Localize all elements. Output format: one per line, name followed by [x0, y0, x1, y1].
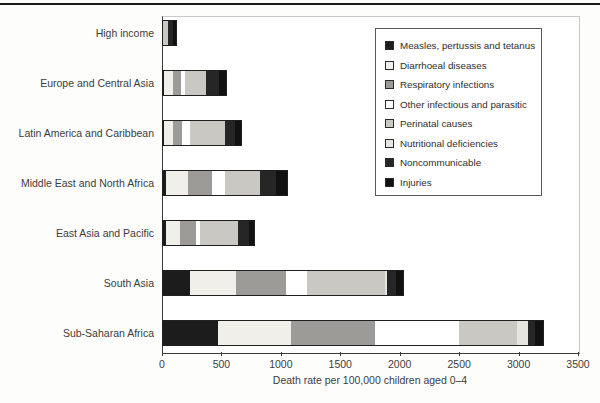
bar-row	[162, 320, 544, 346]
bar-segment	[185, 71, 206, 95]
bar-segment	[387, 271, 396, 295]
legend-swatch-icon	[385, 41, 394, 50]
bar-segment	[180, 221, 195, 245]
legend-item: Other infectious and parasitic	[385, 95, 541, 115]
bar-segment	[307, 271, 385, 295]
chart-area: High incomeEurope and Central AsiaLatin …	[0, 0, 600, 403]
bar-segment	[236, 271, 286, 295]
legend-swatch-icon	[385, 100, 394, 109]
bar-segment	[190, 271, 236, 295]
legend-swatch-icon	[385, 139, 394, 148]
bar-row	[162, 170, 288, 196]
legend-swatch-icon	[385, 61, 394, 70]
x-axis-tick-label: 500	[191, 358, 251, 370]
bar-segment	[225, 171, 260, 195]
bar-segment	[166, 171, 188, 195]
bar-row	[162, 220, 255, 246]
x-axis-tick	[459, 352, 460, 356]
bar-segment	[163, 321, 218, 345]
bar-segment	[173, 71, 181, 95]
x-axis-tick-label: 2000	[370, 358, 430, 370]
bar-segment	[249, 221, 255, 245]
legend-item: Respiratory infections	[385, 75, 541, 95]
bar-segment	[163, 271, 190, 295]
x-axis-tick	[221, 352, 222, 356]
category-label: Latin America and Caribbean	[0, 127, 154, 139]
legend-label: Measles, pertussis and tetanus	[400, 40, 535, 51]
legend-swatch-icon	[385, 119, 394, 128]
x-axis-tick	[519, 352, 520, 356]
bar-segment	[375, 321, 459, 345]
bar-segment	[459, 321, 517, 345]
bar-segment	[206, 71, 218, 95]
legend-item: Diarrhoeal diseases	[385, 56, 541, 76]
bar-row	[162, 20, 177, 46]
bar-segment	[166, 221, 180, 245]
category-label: South Asia	[0, 277, 154, 289]
legend-item: Measles, pertussis and tetanus	[385, 36, 541, 56]
top-rule	[0, 3, 600, 5]
legend-item: Nutritional deficiencies	[385, 134, 541, 154]
bar-segment	[528, 321, 535, 345]
x-axis-tick	[578, 352, 579, 356]
legend-item: Injuries	[385, 173, 541, 193]
bar-segment	[535, 321, 543, 345]
bar-row	[162, 70, 227, 96]
x-axis-tick	[162, 352, 163, 356]
bar-segment	[212, 171, 224, 195]
bar-segment	[260, 171, 277, 195]
x-axis-tick	[340, 352, 341, 356]
bar-segment	[182, 121, 190, 145]
legend-swatch-icon	[385, 80, 394, 89]
legend-label: Other infectious and parasitic	[400, 99, 527, 110]
category-label: Europe and Central Asia	[0, 77, 154, 89]
bar-segment	[164, 121, 173, 145]
bar-segment	[218, 321, 292, 345]
bar-segment	[173, 21, 176, 45]
bar-segment	[276, 171, 286, 195]
legend: Measles, pertussis and tetanusDiarrhoeal…	[375, 28, 542, 196]
legend-swatch-icon	[385, 158, 394, 167]
bar-segment	[517, 321, 528, 345]
bar-segment	[238, 221, 249, 245]
bar-segment	[225, 121, 236, 145]
legend-label: Perinatal causes	[400, 118, 472, 129]
category-label: Sub-Saharan Africa	[0, 327, 154, 339]
x-axis-tick	[281, 352, 282, 356]
bar-segment	[173, 121, 182, 145]
x-axis-tick-label: 1500	[310, 358, 370, 370]
legend-items: Measles, pertussis and tetanusDiarrhoeal…	[385, 36, 541, 192]
bar-segment	[188, 171, 212, 195]
bar-row	[162, 270, 404, 296]
bar-segment	[164, 71, 173, 95]
legend-swatch-icon	[385, 178, 394, 187]
x-axis-tick	[400, 352, 401, 356]
bar-segment	[396, 271, 403, 295]
bar-segment	[286, 271, 307, 295]
category-label: High income	[0, 27, 154, 39]
x-axis-tick-label: 3000	[489, 358, 549, 370]
legend-item: Perinatal causes	[385, 114, 541, 134]
category-label: Middle East and North Africa	[0, 177, 154, 189]
bar-segment	[291, 321, 374, 345]
legend-label: Diarrhoeal diseases	[400, 60, 487, 71]
bar-row	[162, 120, 242, 146]
x-axis-tick-label: 3500	[548, 358, 600, 370]
bar-segment	[235, 121, 241, 145]
legend-label: Respiratory infections	[400, 79, 494, 90]
bar-segment	[219, 71, 226, 95]
x-axis-title: Death rate per 100,000 children aged 0–4	[162, 374, 578, 386]
category-label: East Asia and Pacific	[0, 227, 154, 239]
bar-segment	[200, 221, 237, 245]
x-axis-tick-label: 0	[132, 358, 192, 370]
bar-segment	[190, 121, 224, 145]
legend-label: Nutritional deficiencies	[400, 138, 498, 149]
legend-label: Injuries	[400, 177, 432, 188]
x-axis-tick-label: 1000	[251, 358, 311, 370]
legend-item: Noncommunicable	[385, 153, 541, 173]
legend-label: Noncommunicable	[400, 157, 481, 168]
x-axis-tick-label: 2500	[429, 358, 489, 370]
